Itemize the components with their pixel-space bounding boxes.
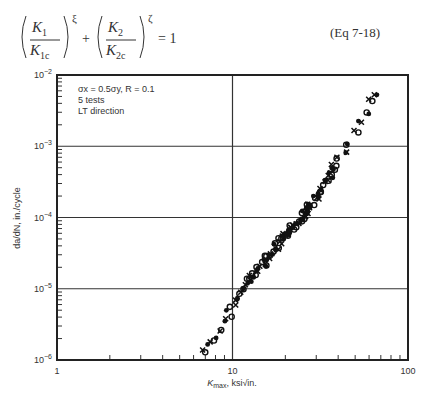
annotation-stress: σx = 0.5σy, R = 0.1 xyxy=(78,84,154,95)
svg-text:10−4: 10−4 xyxy=(34,211,52,223)
data-points xyxy=(200,92,379,355)
svg-text:1: 1 xyxy=(54,366,59,376)
y-axis-label: da/dN, in./cycle xyxy=(12,187,22,249)
svg-text:10: 10 xyxy=(227,366,237,376)
svg-text:10−6: 10−6 xyxy=(34,353,52,365)
x-tick-labels: 110100 xyxy=(54,366,415,376)
svg-text:10−2: 10−2 xyxy=(34,68,52,80)
x-axis-label: Kmax, ksi√in. xyxy=(207,378,257,389)
svg-text:10−5: 10−5 xyxy=(34,282,52,294)
axis-ticks xyxy=(57,78,400,360)
annotation-direction: LT direction xyxy=(78,106,124,117)
svg-text:100: 100 xyxy=(400,366,415,376)
gridlines xyxy=(57,75,408,360)
y-tick-labels: 10−610−510−410−310−2 xyxy=(34,68,52,365)
annotation-tests: 5 tests xyxy=(78,95,105,106)
fatigue-crack-growth-chart: 10−610−510−410−310−2 110100 Kmax, ksi√in… xyxy=(0,0,434,402)
svg-text:10−3: 10−3 xyxy=(34,139,52,151)
